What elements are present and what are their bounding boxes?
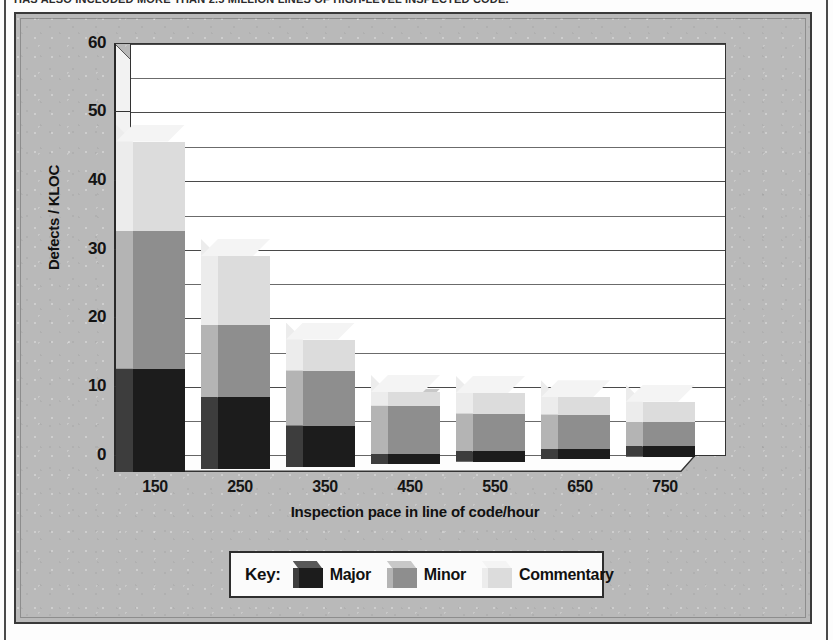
x-label-250: 250 [227, 478, 253, 496]
legend-label-minor: Minor [424, 566, 466, 584]
legend-label-major: Major [330, 566, 371, 584]
page-left-rule [4, 0, 6, 640]
x-label-750: 750 [652, 478, 678, 496]
legend-swatch-minor-icon [387, 561, 417, 588]
chart-legend: Key: Major Minor [229, 551, 604, 598]
caption-text: HAS ALSO INCLUDED MORE THAN 2.5 MILLION … [14, 0, 833, 5]
figure-box: 60 50 40 30 20 10 0 Defects / KLOC 15025… [14, 12, 812, 624]
x-label-350: 350 [312, 478, 338, 496]
page-right-rule [826, 0, 828, 640]
x-label-550: 550 [482, 478, 508, 496]
legend-key-label: Key: [245, 565, 281, 585]
x-label-650: 650 [567, 478, 593, 496]
legend-item-minor: Minor [387, 561, 466, 588]
x-axis-tick-labels: 150250350450550650750 [16, 14, 814, 626]
legend-swatch-major-icon [293, 561, 323, 588]
x-label-450: 450 [397, 478, 423, 496]
caption-strip: HAS ALSO INCLUDED MORE THAN 2.5 MILLION … [0, 0, 833, 9]
x-axis-title: Inspection pace in line of code/hour [16, 503, 814, 520]
plot-area: 60 50 40 30 20 10 0 Defects / KLOC 15025… [16, 14, 814, 626]
x-label-150: 150 [142, 478, 168, 496]
legend-item-commentary: Commentary [482, 561, 614, 588]
legend-swatch-commentary-icon [482, 561, 512, 588]
page-root: HAS ALSO INCLUDED MORE THAN 2.5 MILLION … [0, 0, 833, 640]
legend-label-commentary: Commentary [519, 566, 614, 584]
legend-item-major: Major [293, 561, 371, 588]
